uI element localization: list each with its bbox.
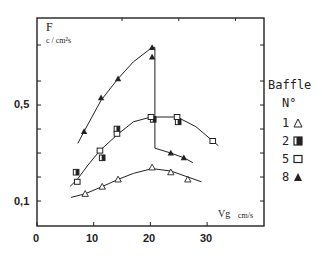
legend-item-5: 5 — [268, 150, 311, 168]
x-tick-label-30: 30 — [200, 232, 212, 244]
y-tick-label-0.1: 0,1 — [14, 195, 29, 207]
half-filled-square-icon — [293, 136, 303, 146]
data-markers — [73, 44, 215, 196]
open-triangle-icon — [293, 118, 303, 128]
legend-label: 1 — [282, 116, 289, 130]
legend-item-1: 1 — [268, 114, 311, 132]
x-tick-label-0: 0 — [33, 232, 39, 244]
filled-triangle-icon — [293, 172, 303, 182]
x-axis-unit: cm/s — [238, 211, 253, 220]
y-axis-title: F — [46, 20, 53, 35]
legend-label: 2 — [282, 134, 289, 148]
x-tick-label-10: 10 — [86, 232, 98, 244]
legend-item-8: 8 — [268, 168, 311, 186]
legend-label: 5 — [282, 152, 289, 166]
x-axis-title: Vg — [218, 208, 230, 219]
y-tick-label-0.5: 0,5 — [14, 98, 29, 110]
y-axis-unit: c / cm²s — [46, 36, 71, 45]
open-square-icon — [293, 154, 303, 164]
legend: Baffle N° 1 2 5 8 — [268, 78, 311, 186]
fit-curves — [70, 47, 219, 197]
legend-title: Baffle — [268, 78, 311, 92]
x-tick-label-20: 20 — [143, 232, 155, 244]
legend-item-2: 2 — [268, 132, 311, 150]
x-axis-title-text: Vg — [218, 208, 230, 219]
legend-label: 8 — [282, 170, 289, 184]
legend-subtitle: N° — [268, 96, 311, 110]
